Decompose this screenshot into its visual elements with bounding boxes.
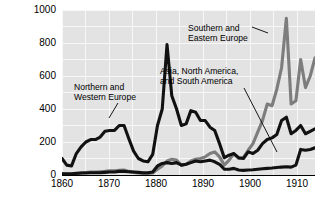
x-tick-1890: 1890: [183, 178, 223, 189]
y-tick-600: 600: [0, 71, 56, 81]
y-tick-200: 200: [0, 137, 56, 147]
x-tick-1870: 1870: [89, 178, 129, 189]
annotation-asia-americas-line2: and South America: [160, 76, 233, 86]
x-tick-1860: 1860: [42, 178, 82, 189]
annotation-asia-americas-line1: Asia, North America,: [160, 66, 238, 76]
y-tick-400: 400: [0, 104, 56, 114]
annotation-northern-western-europe-line1: Northern and: [74, 82, 124, 92]
x-axis-line: [62, 175, 315, 176]
annotation-southern-eastern-europe-line1: Southern and: [188, 23, 240, 33]
series-line-northern-western-europe: [62, 45, 315, 166]
y-tick-1000: 1000: [0, 5, 56, 15]
x-tick-1900: 1900: [230, 178, 270, 189]
series-line-asia-americas: [62, 148, 315, 174]
x-tick-1880: 1880: [136, 178, 176, 189]
y-tick-800: 800: [0, 38, 56, 48]
immigration-line-chart: Thousands of Immigrants 1000 800 600 400…: [0, 0, 322, 210]
annotation-southern-eastern-europe-line2: Eastern Europe: [188, 33, 248, 43]
x-tick-1910: 1910: [277, 178, 317, 189]
annotation-northern-western-europe-line2: Western Europe: [74, 92, 136, 102]
